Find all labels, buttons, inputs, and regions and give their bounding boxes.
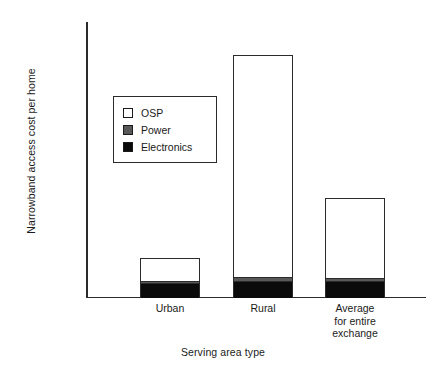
bar-segment-power (233, 277, 293, 281)
y-axis-line (86, 22, 88, 297)
chart-legend: OSPPowerElectronics (113, 96, 217, 163)
stacked-bar (325, 198, 385, 298)
legend-item-label: OSP (141, 107, 163, 119)
bar-segment-power (325, 278, 385, 281)
legend-item: OSP (123, 104, 208, 121)
bar-segment-osp (325, 198, 385, 279)
electronics-swatch (123, 142, 133, 152)
osp-swatch (123, 108, 133, 118)
legend-item-label: Power (141, 124, 171, 136)
x-axis-title: Serving area type (0, 346, 446, 358)
category-label: Averagefor entireexchange (295, 302, 415, 340)
category-label-line: for entire (295, 315, 415, 328)
legend-item-label: Electronics (141, 141, 192, 153)
category-label-line: exchange (295, 327, 415, 340)
y-axis-title: Narrowband access cost per home (25, 41, 37, 261)
legend-item: Electronics (123, 138, 208, 155)
bar-segment-power (140, 281, 200, 283)
bar-segment-osp (140, 258, 200, 280)
bar-segment-electronics (233, 281, 293, 298)
bar-segment-electronics (140, 283, 200, 298)
category-label-line: Average (295, 302, 415, 315)
stacked-bar (140, 258, 200, 298)
power-swatch (123, 125, 133, 135)
bar-chart-figure: Narrowband access cost per home Serving … (0, 0, 446, 381)
legend-item: Power (123, 121, 208, 138)
stacked-bar (233, 55, 293, 298)
bar-segment-osp (233, 55, 293, 277)
bar-segment-electronics (325, 281, 385, 298)
